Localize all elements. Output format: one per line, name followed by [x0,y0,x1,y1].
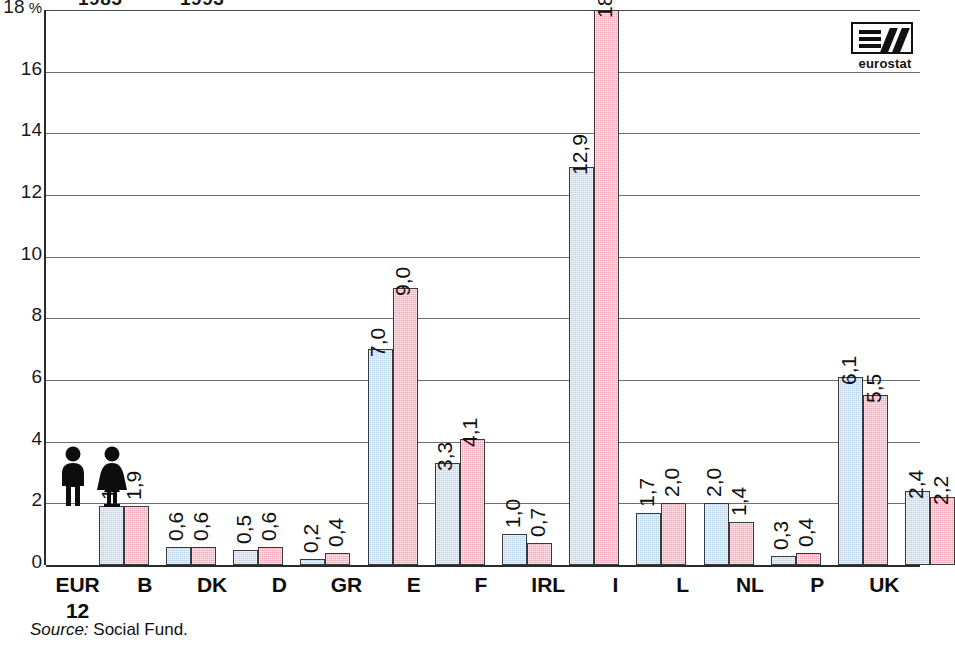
bar-uk-1993 [930,497,955,565]
bar-value-label: 0,4 [794,517,818,546]
bar-value-label: 4,1 [458,417,482,446]
bar-value-label: 1,0 [501,499,525,528]
bar-value-label: 18,0 [593,0,617,18]
bar-d-1993 [325,553,350,565]
gridline-6 [46,380,920,381]
bar-value-label: 2,0 [702,468,726,497]
gridline-14 [46,133,920,134]
bar-nl-1985 [771,556,796,565]
y-tick-label-16: 16 [0,58,42,80]
bar-value-label: 5,5 [862,374,886,403]
bar-irl-1985 [569,167,594,565]
bar-value-label: 3,3 [433,442,457,471]
y-tick-label-6: 6 [0,366,42,388]
bar-l-1985 [704,503,729,565]
bar-value-label: 0,6 [164,511,188,540]
male-figure-icon [58,446,88,508]
bar-i-1985 [636,513,661,565]
female-figure-icon [96,446,128,508]
y-tick-label-14: 14 [0,120,42,142]
gridline-8 [46,318,920,319]
bar-f-1993 [527,543,552,565]
gridline-0 [46,565,920,567]
bar-e-1993 [460,439,485,565]
bar-p-1993 [863,395,888,565]
bar-value-label: 0,2 [299,524,323,553]
bar-value-label: 0,7 [526,508,550,537]
bar-uk-1985 [905,491,930,565]
bar-value-label: 1,4 [727,487,751,516]
y-tick-label-8: 8 [0,305,42,327]
legend-item-series-2: 1993 [180,0,224,10]
bar-eur-12-1985 [99,506,124,565]
bar-value-label: 12,9 [568,134,592,175]
bar-eur-12-1993 [124,506,149,565]
bar-nl-1993 [796,553,821,565]
bar-b-1993 [191,547,216,566]
bar-dk-1985 [233,550,258,565]
bar-value-label: 0,3 [769,521,793,550]
bar-value-label: 0,6 [257,511,281,540]
bar-value-label: 2,4 [904,470,928,499]
bar-value-label: 9,0 [391,266,415,295]
y-tick-label-4: 4 [0,428,42,450]
bar-value-label: 6,1 [837,356,861,385]
bar-f-1985 [502,534,527,565]
bar-b-1985 [166,547,191,566]
bar-irl-1993 [594,10,619,565]
bar-d-1985 [300,559,325,565]
source-text: Social Fund. [93,620,188,639]
y-tick-label-18: 18 % [0,0,42,18]
bar-l-1993 [729,522,754,565]
y-tick-label-12: 12 [0,181,42,203]
bar-value-label: 2,0 [660,468,684,497]
y-tick-label-2: 2 [0,490,42,512]
y-tick-label-10: 10 [0,243,42,265]
source-note: Source: Social Fund. [30,620,188,640]
bar-gr-1993 [393,288,418,566]
x-tick-label-uk: UK [824,573,944,597]
source-label: Source: [30,620,89,639]
bar-value-label: 7,0 [366,328,390,357]
bar-value-label: 0,4 [324,517,348,546]
bar-p-1985 [838,377,863,565]
bar-value-label: 0,6 [189,511,213,540]
bar-value-label: 0,5 [232,514,256,543]
gridline-12 [46,195,920,196]
legend-item-series-1: 1985 [78,0,122,10]
gridline-16 [46,72,920,73]
bar-e-1985 [435,463,460,565]
bar-value-label: 2,2 [929,476,953,505]
bar-value-label: 1,7 [635,477,659,506]
plot-area: 1,91,90,60,60,50,60,20,47,09,03,34,11,00… [44,10,918,565]
gridline-18 [46,10,920,11]
bar-i-1993 [661,503,686,565]
bar-gr-1985 [368,349,393,565]
y-tick-label-0: 0 [0,551,42,573]
chart-legend: 1985 1993 [0,0,400,6]
bar-dk-1993 [258,547,283,566]
gridline-10 [46,257,920,258]
